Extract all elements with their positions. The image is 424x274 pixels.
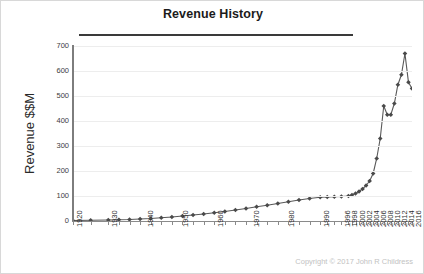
x-tick [91, 221, 92, 225]
x-tick [235, 221, 236, 225]
x-tick [73, 221, 74, 225]
data-point-marker [297, 198, 302, 203]
x-tick-label: 2016 [415, 210, 423, 227]
gridline [73, 121, 412, 122]
y-tick-label: 500 [39, 92, 69, 100]
copyright-notice: Copyright © 2017 John R Childress [295, 257, 413, 266]
y-axis-label: Revenue $$M [22, 49, 37, 219]
gridline [73, 96, 412, 97]
x-tick [140, 221, 141, 225]
plot-area [73, 46, 412, 221]
x-tick-label: 1920 [76, 210, 84, 227]
y-tick-label: 600 [39, 67, 69, 75]
x-tick-label: 1940 [147, 210, 155, 227]
data-point-marker [406, 80, 411, 85]
data-point-marker [233, 208, 238, 213]
x-tick [193, 221, 194, 225]
data-point-marker [191, 213, 196, 218]
data-point-marker [392, 101, 397, 106]
page-title: Revenue History [1, 7, 424, 21]
gridline [73, 146, 412, 147]
data-point-marker [265, 203, 270, 208]
y-tick-label: 200 [39, 167, 69, 175]
data-point-marker [396, 82, 401, 87]
data-point-marker [403, 51, 408, 56]
x-tick [172, 221, 173, 225]
x-tick [246, 221, 247, 225]
data-point-marker [170, 215, 175, 220]
data-point-marker [159, 215, 164, 220]
title-underline-rule [79, 34, 353, 36]
x-tick [310, 221, 311, 225]
x-tick-label: 1930 [111, 210, 119, 227]
data-point-marker [389, 112, 394, 117]
gridline [73, 71, 412, 72]
data-point-marker [276, 201, 281, 206]
x-tick [334, 221, 335, 225]
x-tick [119, 221, 120, 225]
x-tick [299, 221, 300, 225]
y-tick-label: 100 [39, 192, 69, 200]
data-point-marker [374, 156, 379, 161]
chart-page: Revenue History Revenue $$M 010020030040… [0, 0, 424, 274]
data-point-marker [399, 72, 404, 77]
x-tick [130, 221, 131, 225]
gridline [73, 171, 412, 172]
data-point-marker [381, 104, 386, 109]
revenue-line-series [73, 46, 412, 221]
y-axis-line [72, 45, 74, 222]
x-tick-label: 1980 [288, 210, 296, 227]
data-point-marker [254, 204, 259, 209]
x-tick [278, 221, 279, 225]
y-tick-label: 300 [39, 142, 69, 150]
x-tick [161, 221, 162, 225]
x-tick-label: 1950 [182, 210, 190, 227]
data-point-marker [244, 206, 249, 211]
x-axis-tick-labels: 1920193019401950196019701980199019961998… [73, 227, 412, 273]
x-tick-label: 1970 [253, 210, 261, 227]
y-tick-label: 400 [39, 117, 69, 125]
gridline [73, 196, 412, 197]
data-point-marker [286, 199, 291, 204]
y-axis-tick-labels: 0100200300400500600700 [37, 46, 69, 221]
gridline [73, 46, 412, 47]
x-tick-label: 1960 [217, 210, 225, 227]
x-tick [204, 221, 205, 225]
data-point-marker [201, 212, 206, 217]
y-tick-label: 700 [39, 42, 69, 50]
data-point-marker [378, 136, 383, 141]
x-tick-label: 1990 [323, 210, 331, 227]
y-tick-label: 0 [39, 217, 69, 225]
x-tick [267, 221, 268, 225]
